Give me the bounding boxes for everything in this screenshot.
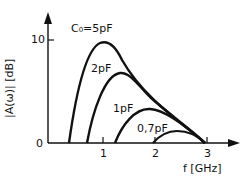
annotation-1pf: 1pF — [113, 103, 133, 114]
x-tick-label-2: 2 — [152, 148, 159, 159]
annotation-5pf: C₀=5pF — [71, 23, 113, 34]
x-axis-arrow-icon — [228, 139, 240, 147]
y-tick-label-10: 10 — [31, 34, 45, 45]
x-tick-label-3: 3 — [204, 148, 211, 159]
annotation-0-7pf: 0,7pF — [137, 123, 168, 134]
x-axis-label: f [GHz] — [183, 163, 222, 174]
y-axis-arrow-icon — [44, 12, 52, 24]
y-axis-label: |A(ω)| [dB] — [3, 59, 16, 118]
y-tick-label-0: 0 — [36, 138, 43, 149]
x-tick-label-1: 1 — [100, 148, 107, 159]
annotation-2pf: 2pF — [91, 63, 111, 74]
